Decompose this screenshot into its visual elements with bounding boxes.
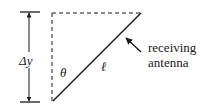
ell-label: ℓ (101, 59, 107, 74)
antenna-label-line1: receiving (148, 40, 197, 55)
delta-y-label: Δy (18, 53, 33, 68)
geometry-diagram: Δy θ ℓ receiving antenna (0, 0, 207, 107)
antenna-line (53, 13, 141, 101)
pointer-arrow (126, 38, 141, 52)
theta-label: θ (60, 65, 67, 80)
antenna-label-line2: antenna (148, 55, 189, 70)
